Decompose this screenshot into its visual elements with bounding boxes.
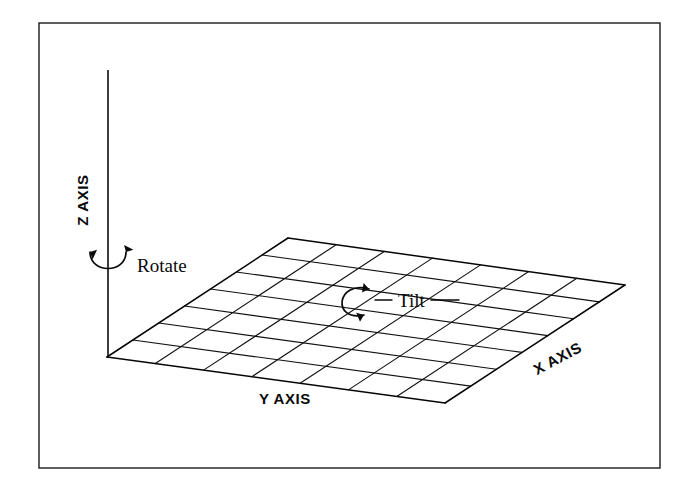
figure-frame [39,23,660,468]
figure-root: Z AXIS X AXIS Y AXIS Rotate Tilt [0,0,695,491]
rotate-label: Rotate [137,255,187,276]
tilt-label: Tilt [398,290,425,311]
axes-orientation-diagram: Z AXIS X AXIS Y AXIS Rotate Tilt [0,0,695,491]
z-axis-label: Z AXIS [74,174,91,225]
y-axis-label: Y AXIS [259,390,311,407]
